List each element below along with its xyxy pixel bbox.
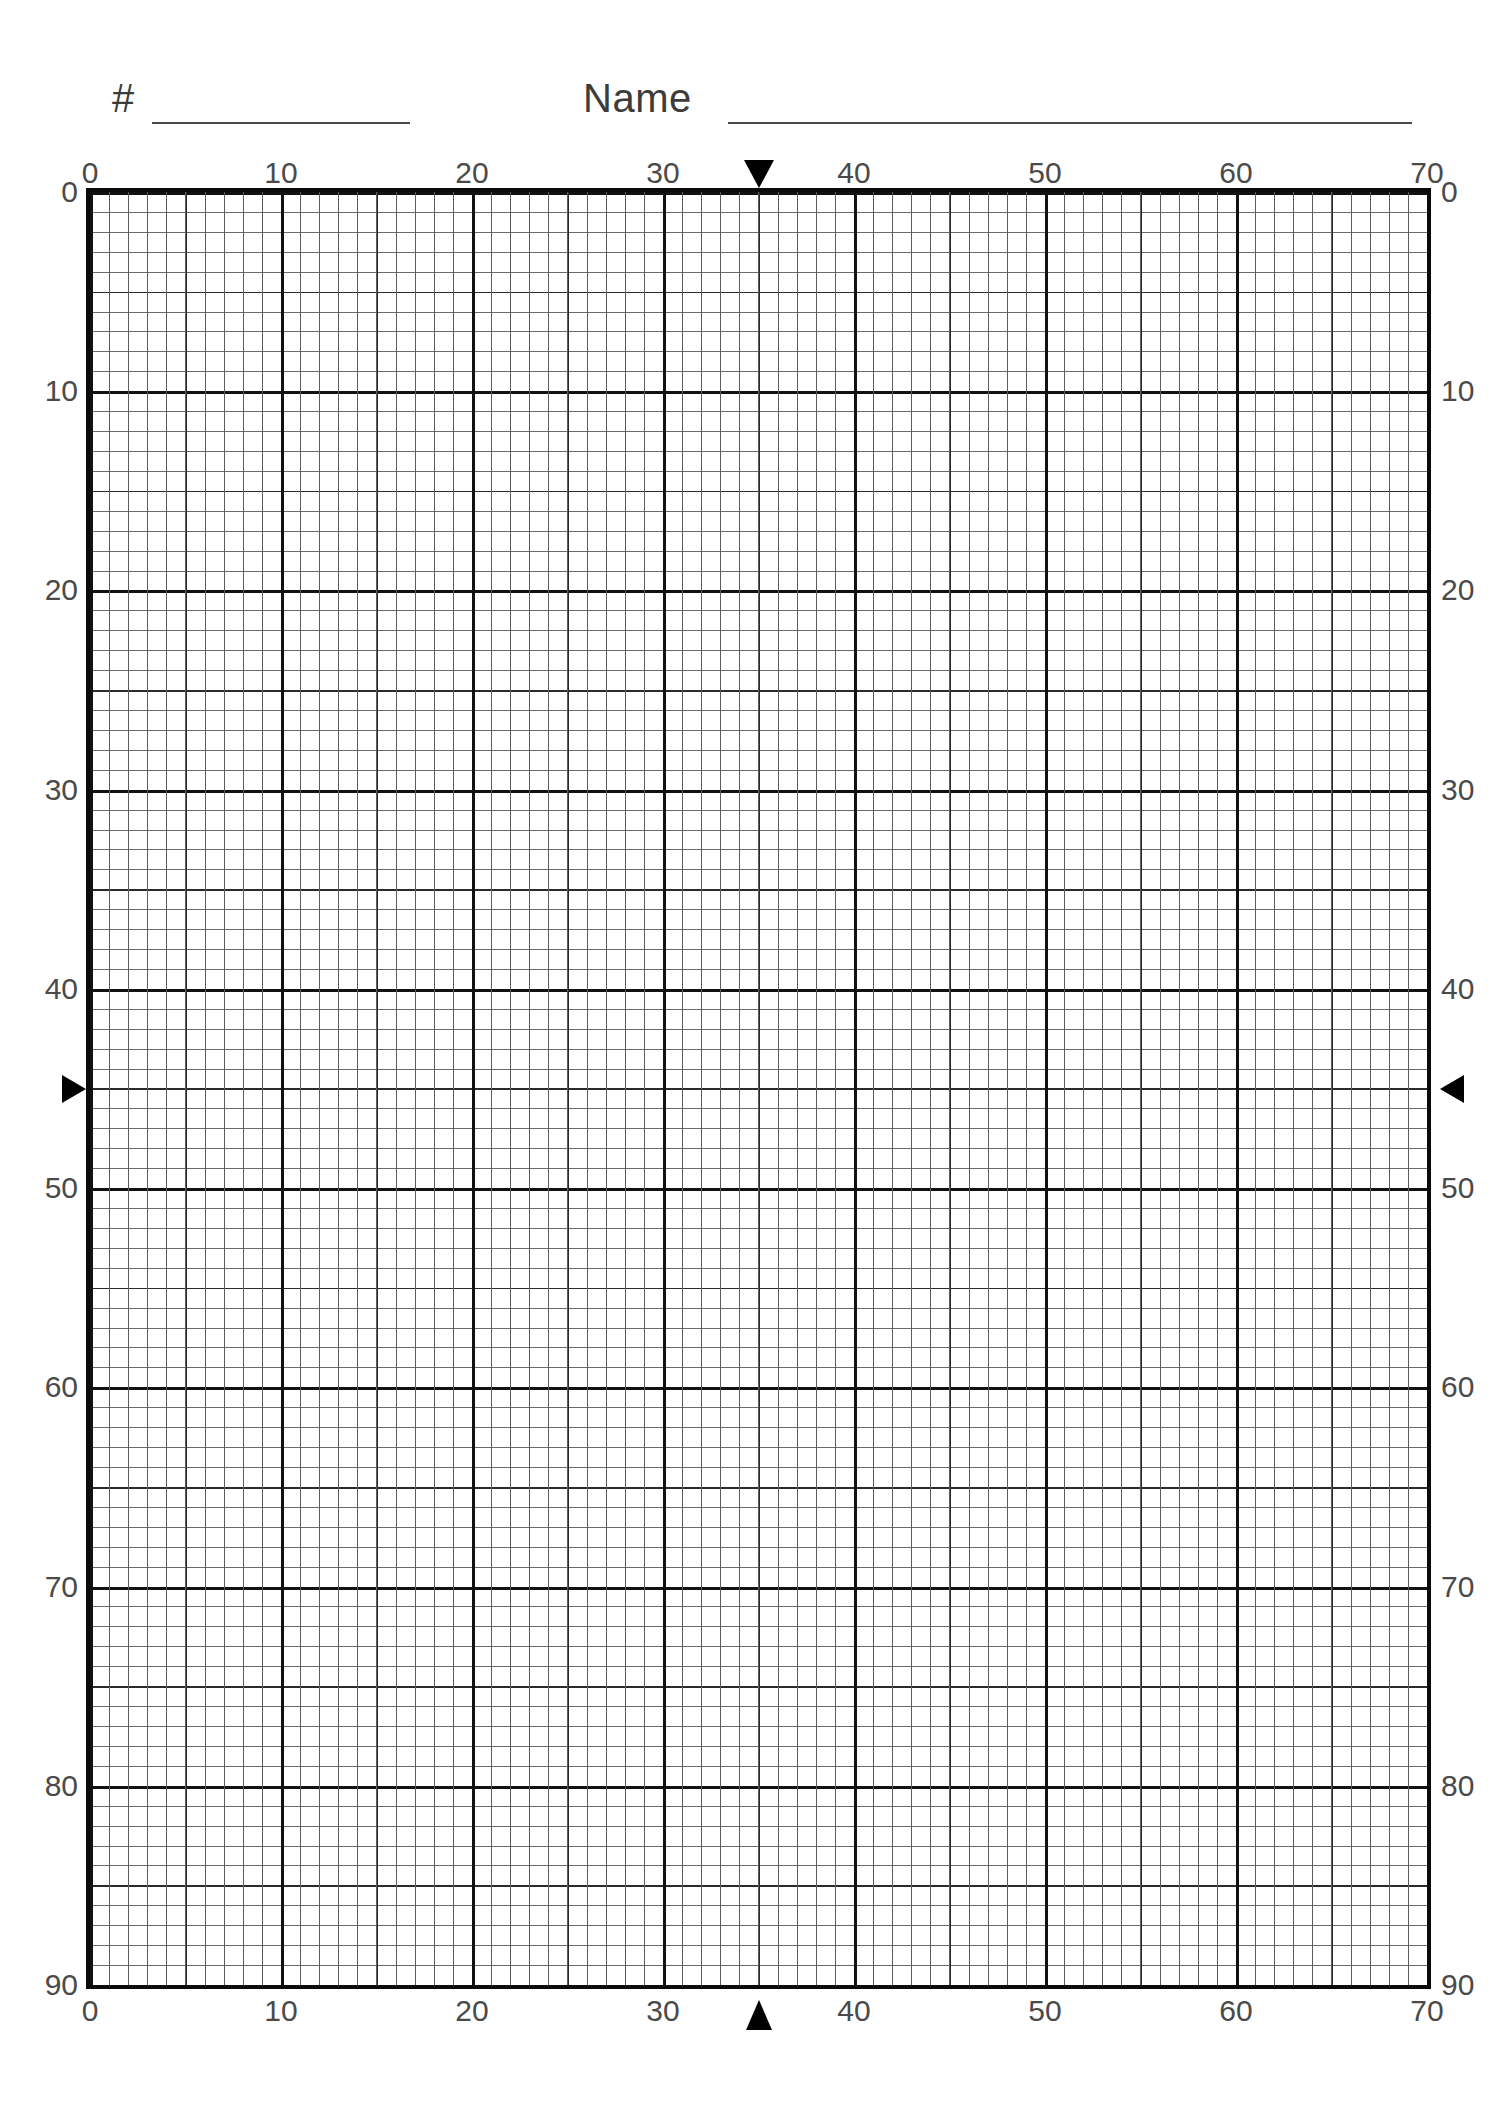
tick-label-right-10: 10 [1441,376,1474,406]
tick-label-right-40: 40 [1441,974,1474,1004]
tick-label-bottom-40: 40 [837,1996,870,2026]
left-marker [62,1075,86,1103]
tick-label-left-30: 30 [45,775,78,805]
tick-label-bottom-10: 10 [264,1996,297,2026]
graph-plot-area[interactable] [90,192,1427,1985]
graph-grid[interactable] [90,192,1427,1985]
tick-label-left-20: 20 [45,575,78,605]
number-field[interactable] [152,122,410,124]
tick-label-left-0: 0 [61,177,78,207]
tick-label-left-90: 90 [45,1970,78,2000]
top-marker [744,160,774,188]
tick-label-bottom-50: 50 [1028,1996,1061,2026]
tick-label-bottom-60: 60 [1219,1996,1252,2026]
tick-label-right-30: 30 [1441,775,1474,805]
tick-label-left-80: 80 [45,1771,78,1801]
tick-label-top-40: 40 [837,158,870,188]
tick-label-right-80: 80 [1441,1771,1474,1801]
tick-label-left-70: 70 [45,1572,78,1602]
tick-label-bottom-0: 0 [82,1996,99,2026]
tick-label-left-10: 10 [45,376,78,406]
name-label: Name [583,78,692,118]
worksheet-header: # Name [0,0,1490,150]
tick-label-left-40: 40 [45,974,78,1004]
tick-label-top-10: 10 [264,158,297,188]
tick-label-right-70: 70 [1441,1572,1474,1602]
right-marker [1440,1075,1464,1103]
tick-label-right-0: 0 [1441,177,1458,207]
tick-label-top-60: 60 [1219,158,1252,188]
tick-label-top-50: 50 [1028,158,1061,188]
tick-label-left-50: 50 [45,1173,78,1203]
tick-label-bottom-70: 70 [1410,1996,1443,2026]
number-label: # [112,78,135,118]
tick-label-top-30: 30 [646,158,679,188]
name-field[interactable] [728,122,1412,124]
tick-label-right-50: 50 [1441,1173,1474,1203]
bottom-marker [746,2000,772,2030]
tick-label-top-70: 70 [1410,158,1443,188]
tick-label-top-20: 20 [455,158,488,188]
tick-label-left-60: 60 [45,1372,78,1402]
tick-label-right-90: 90 [1441,1970,1474,2000]
tick-label-top-0: 0 [82,158,99,188]
tick-label-bottom-20: 20 [455,1996,488,2026]
tick-label-bottom-30: 30 [646,1996,679,2026]
tick-label-right-20: 20 [1441,575,1474,605]
tick-label-right-60: 60 [1441,1372,1474,1402]
